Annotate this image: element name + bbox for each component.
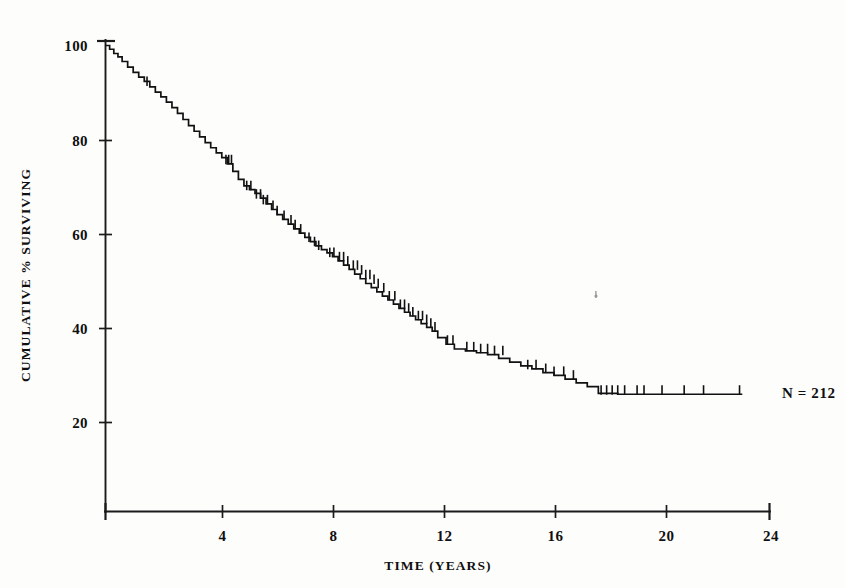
x-tick-label-8: 8 (330, 528, 338, 544)
y-tick-label-100: 100 (64, 38, 88, 54)
survival-curve-figure: 100 80 60 40 20 4 8 12 16 20 24 TIME (YE… (0, 0, 845, 588)
x-axis-title: TIME (YEARS) (384, 558, 491, 573)
y-tick-label-40: 40 (72, 321, 88, 337)
x-tick-label-20: 20 (659, 528, 675, 544)
y-axis-tick-labels: 100 80 60 40 20 (64, 38, 88, 431)
y-axis-title: CUMULATIVE % SURVIVING (18, 168, 33, 382)
sample-size-annotation: N = 212 (782, 385, 836, 401)
censor-tick-group (147, 77, 740, 395)
x-tick-label-16: 16 (548, 528, 564, 544)
x-tick-label-24: 24 (763, 528, 779, 544)
survival-curve-group (106, 46, 743, 395)
x-axis-tick-labels: 4 8 12 16 20 24 (219, 528, 779, 544)
y-tick-label-20: 20 (72, 415, 88, 431)
y-tick-label-80: 80 (72, 133, 88, 149)
x-tick-label-12: 12 (437, 528, 453, 544)
scan-speck-streak (595, 291, 596, 298)
x-tick-label-4: 4 (219, 528, 227, 544)
y-tick-label-60: 60 (72, 227, 88, 243)
plot-canvas: 100 80 60 40 20 4 8 12 16 20 24 TIME (YE… (0, 0, 845, 588)
axes-group (97, 40, 770, 520)
survival-step-curve (106, 46, 743, 395)
